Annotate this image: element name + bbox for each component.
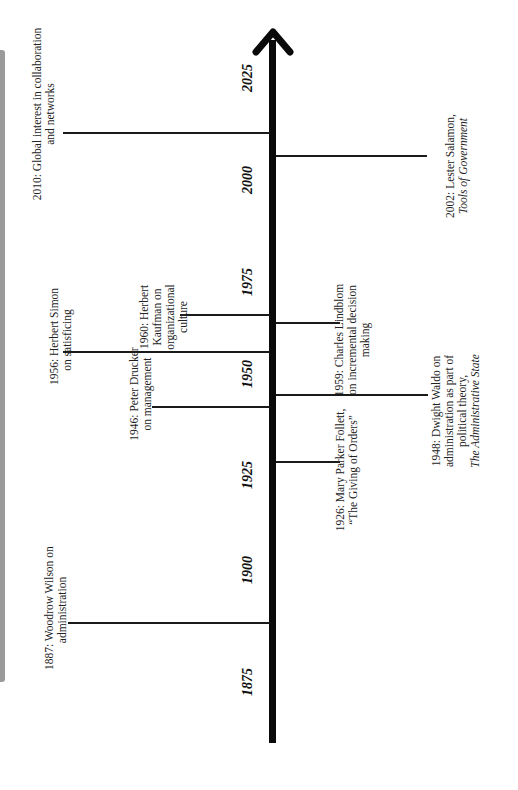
event-label-line: 1887: Woodrow Wilson on <box>43 550 56 670</box>
event-label-line: administration as part of <box>443 346 456 476</box>
event-label-line: 2010: Global interest in collaboration <box>31 4 44 224</box>
event-label-line: making <box>359 277 372 403</box>
year-label-1925: 1925 <box>238 445 258 505</box>
event-tick-1960 <box>180 314 270 316</box>
event-label-line: and networks <box>44 4 57 224</box>
year-label-1975: 1975 <box>238 252 258 312</box>
event-label-2010: 2010: Global interest in collaboration a… <box>31 4 59 224</box>
event-label-line: Tools of Government <box>457 104 470 228</box>
page-edge-shadow <box>0 50 5 682</box>
event-label-1946: 1946: Peter Drucker on management <box>128 344 156 444</box>
event-tick-1926 <box>276 461 340 463</box>
event-tick-1887 <box>68 622 270 624</box>
event-label-1887: 1887: Woodrow Wilson on administration <box>43 550 71 670</box>
year-label-1950: 1950 <box>238 344 258 404</box>
event-label-line: administration <box>56 550 69 670</box>
event-label-line: 2002: Lester Salamon, <box>444 104 457 228</box>
event-label-line: on satisficing <box>61 295 74 385</box>
year-label-1900: 1900 <box>238 540 258 600</box>
event-tick-1946 <box>152 406 270 408</box>
event-tick-2010 <box>63 132 270 134</box>
event-label-line: 1946: Peter Drucker <box>128 344 141 444</box>
event-label-line: “The Giving of Orders” <box>347 405 360 535</box>
event-label-line: 1959: Charles Lindblom <box>333 277 346 403</box>
event-label-line: organizational <box>164 277 177 357</box>
event-label-line: The Administrative State <box>469 346 482 476</box>
event-label-1956: 1956: Herbert Simon on satisficing <box>48 295 76 385</box>
event-label-line: 1948: Dwight Waldo on <box>430 346 443 476</box>
arrow-up-icon <box>252 26 294 56</box>
event-tick-2002 <box>276 155 427 157</box>
event-label-1959: 1959: Charles Lindblom on incremental de… <box>333 277 373 403</box>
year-label-2025: 2025 <box>238 48 258 108</box>
event-label-1926: 1926: Mary Parker Follett, “The Giving o… <box>334 405 362 535</box>
event-label-line: on incremental decision <box>346 277 359 403</box>
event-label-line: 1926: Mary Parker Follett, <box>334 405 347 535</box>
timeline-axis <box>269 40 276 743</box>
event-label-line: political theory, <box>456 346 469 476</box>
event-label-2002: 2002: Lester Salamon, Tools of Governmen… <box>444 104 472 228</box>
year-label-2000: 2000 <box>238 150 258 210</box>
year-label-1875: 1875 <box>238 652 258 712</box>
event-label-1948: 1948: Dwight Waldo on administration as … <box>430 346 484 476</box>
event-label-line: 1956: Herbert Simon <box>48 295 61 385</box>
event-tick-1959 <box>276 322 340 324</box>
event-label-line: culture <box>177 277 190 357</box>
event-label-line: on management <box>141 344 154 444</box>
